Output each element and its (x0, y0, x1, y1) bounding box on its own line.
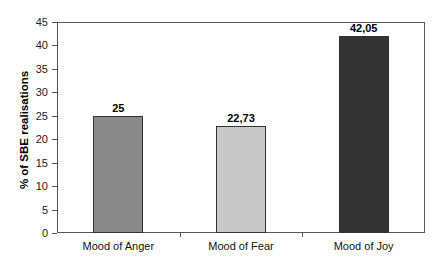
x-category-label: Mood of Joy (303, 240, 425, 252)
bar (216, 126, 266, 233)
x-tick-mark (180, 233, 181, 237)
y-tick-label: 45 (20, 16, 48, 28)
bar-value-label: 25 (78, 102, 158, 114)
y-tick-label: 25 (20, 110, 48, 122)
y-tick-label: 10 (20, 180, 48, 192)
y-tick-mark (52, 233, 57, 234)
y-tick-label: 30 (20, 86, 48, 98)
y-tick-label: 0 (20, 227, 48, 239)
y-tick-mark (52, 186, 57, 187)
y-tick-mark (52, 163, 57, 164)
bar (339, 36, 389, 233)
x-category-label: Mood of Anger (57, 240, 179, 252)
y-tick-label: 20 (20, 133, 48, 145)
y-tick-label: 35 (20, 63, 48, 75)
y-tick-mark (52, 45, 57, 46)
bar-value-label: 22,73 (201, 112, 281, 124)
y-tick-mark (52, 139, 57, 140)
y-tick-mark (52, 92, 57, 93)
y-tick-mark (52, 210, 57, 211)
y-tick-mark (52, 116, 57, 117)
y-tick-label: 5 (20, 204, 48, 216)
bar-value-label: 42,05 (324, 22, 404, 34)
x-category-label: Mood of Fear (180, 240, 302, 252)
y-tick-label: 40 (20, 39, 48, 51)
y-tick-mark (52, 22, 57, 23)
y-tick-mark (52, 69, 57, 70)
x-tick-mark (302, 233, 303, 237)
bar (93, 116, 143, 233)
y-tick-label: 15 (20, 157, 48, 169)
